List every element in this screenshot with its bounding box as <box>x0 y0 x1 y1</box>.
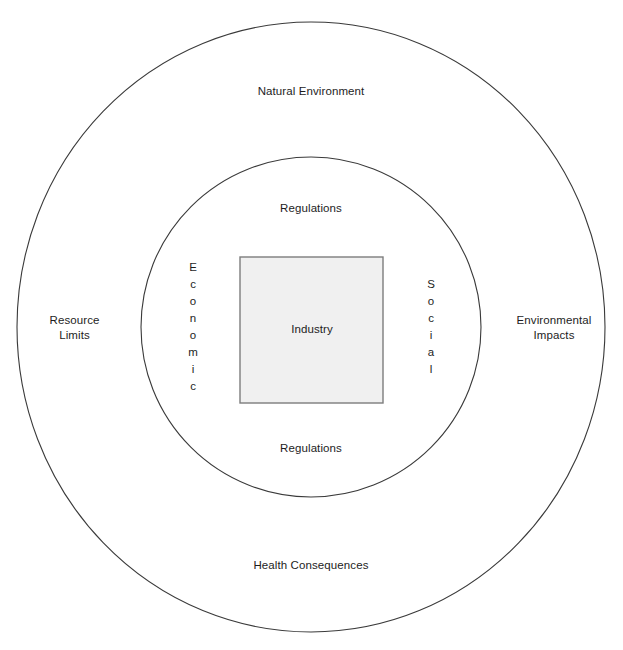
diagram-canvas: Natural Environment Resource Limits Envi… <box>0 0 623 650</box>
vertical-label-char: o <box>186 327 200 344</box>
label-industry: Industry <box>251 322 373 337</box>
vertical-label-char: n <box>186 310 200 327</box>
vertical-label-char: c <box>186 276 200 293</box>
vertical-label-char: i <box>424 327 438 344</box>
label-economic-vertical: Economic <box>186 259 200 395</box>
label-natural-environment: Natural Environment <box>211 84 411 99</box>
vertical-label-char: c <box>424 310 438 327</box>
vertical-label-char: o <box>186 293 200 310</box>
vertical-label-char: l <box>424 361 438 378</box>
label-health-consequences: Health Consequences <box>211 558 411 573</box>
vertical-label-char: i <box>186 361 200 378</box>
label-regulations-bottom: Regulations <box>231 441 391 456</box>
label-regulations-top: Regulations <box>231 201 391 216</box>
vertical-label-char: c <box>186 378 200 395</box>
vertical-label-char: S <box>424 276 438 293</box>
vertical-label-char: m <box>186 344 200 361</box>
vertical-label-char: E <box>186 259 200 276</box>
vertical-label-char: a <box>424 344 438 361</box>
label-social-vertical: Social <box>424 276 438 378</box>
label-resource-limits: Resource Limits <box>17 313 132 342</box>
vertical-label-char: o <box>424 293 438 310</box>
label-environmental-impacts: Environmental Impacts <box>492 313 616 342</box>
